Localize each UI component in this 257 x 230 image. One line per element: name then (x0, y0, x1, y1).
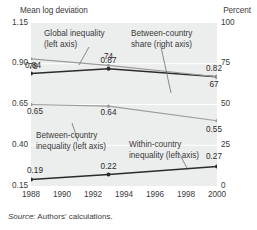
data-point-label: 74 (104, 52, 113, 61)
series-line (31, 105, 217, 121)
series-between-country-inequality-left-axis (31, 103, 217, 123)
left-axis-title: Mean log deviation (20, 6, 88, 15)
data-point-label: 0.27 (206, 152, 222, 161)
data-point-label: 78 (28, 62, 37, 71)
right-axis-tick-labels: 1007550250 (221, 23, 253, 186)
data-point-label: 0.64 (101, 108, 117, 117)
x-tick-label: 1994 (115, 190, 133, 199)
annotation-line-2: inequality (left axis) (129, 151, 199, 162)
annotation-between-country-share: Between-countryshare (right axis) (131, 29, 192, 50)
x-tick-label: 2000 (208, 190, 226, 199)
data-point-marker (215, 119, 217, 122)
source-text: Authors' calculations. (37, 212, 112, 221)
x-tick-label: 1996 (146, 190, 164, 199)
right-tick-label: 75 (221, 58, 230, 67)
series-line (31, 59, 217, 77)
right-tick-label: 100 (221, 18, 235, 27)
data-point-label: 0.55 (206, 125, 222, 134)
x-tick-label: 1992 (84, 190, 102, 199)
annotation-line-1: Between-country (131, 29, 192, 40)
annotation-between-country-inequality: Between-countryinequality (left axis) (36, 131, 106, 152)
data-point-label: 0.19 (27, 166, 43, 175)
left-tick-label: 0.65 (12, 99, 28, 108)
right-tick-label: 25 (221, 140, 230, 149)
series-within-country-inequality-left-axis (31, 164, 217, 181)
source-label: Source: (8, 212, 36, 221)
left-tick-label: 0.40 (12, 140, 28, 149)
annotation-leader-line (161, 47, 171, 93)
annotation-line-1: Within-country (129, 140, 199, 151)
right-tick-label: 50 (221, 99, 230, 108)
series-line (31, 69, 217, 77)
left-tick-label: 0.15 (12, 181, 28, 190)
x-axis-tick-labels: 1988199019921994199619982000 (31, 189, 217, 203)
left-tick-label: 1.15 (12, 18, 28, 27)
data-point-marker (31, 177, 33, 181)
data-point-label: 0.22 (101, 162, 117, 171)
data-point-label: 0.65 (27, 107, 43, 116)
data-point-marker (107, 173, 111, 177)
annotation-within-country-inequality: Within-countryinequality (left axis) (129, 140, 199, 161)
data-point-label: 0.82 (206, 64, 222, 73)
source-note: Source: Authors' calculations. (8, 212, 113, 221)
series-line (31, 166, 217, 179)
annotation-line-2: inequality (left axis) (36, 142, 106, 153)
data-point-label: 67 (209, 80, 218, 89)
annotation-line-2: (left axis) (44, 40, 105, 51)
series-global-inequality-left-axis (31, 67, 217, 79)
data-point-marker (107, 67, 111, 71)
annotation-line-1: Global inequality (44, 29, 105, 40)
annotation-global-inequality: Global inequality(left axis) (44, 29, 105, 50)
annotation-line-1: Between-country (36, 131, 106, 142)
x-tick-label: 1988 (22, 190, 40, 199)
chart-figure: Mean log deviation Percent 1.150.900.650… (0, 0, 257, 230)
annotation-line-2: share (right axis) (131, 40, 192, 51)
right-axis-title: Percent (223, 6, 251, 15)
right-tick-label: 0 (221, 181, 226, 190)
x-tick-label: 1998 (177, 190, 195, 199)
data-point-marker (215, 164, 217, 168)
x-tick-label: 1990 (53, 190, 71, 199)
left-axis-tick-labels: 1.150.900.650.400.15 (2, 23, 28, 186)
data-point-marker (31, 72, 33, 76)
